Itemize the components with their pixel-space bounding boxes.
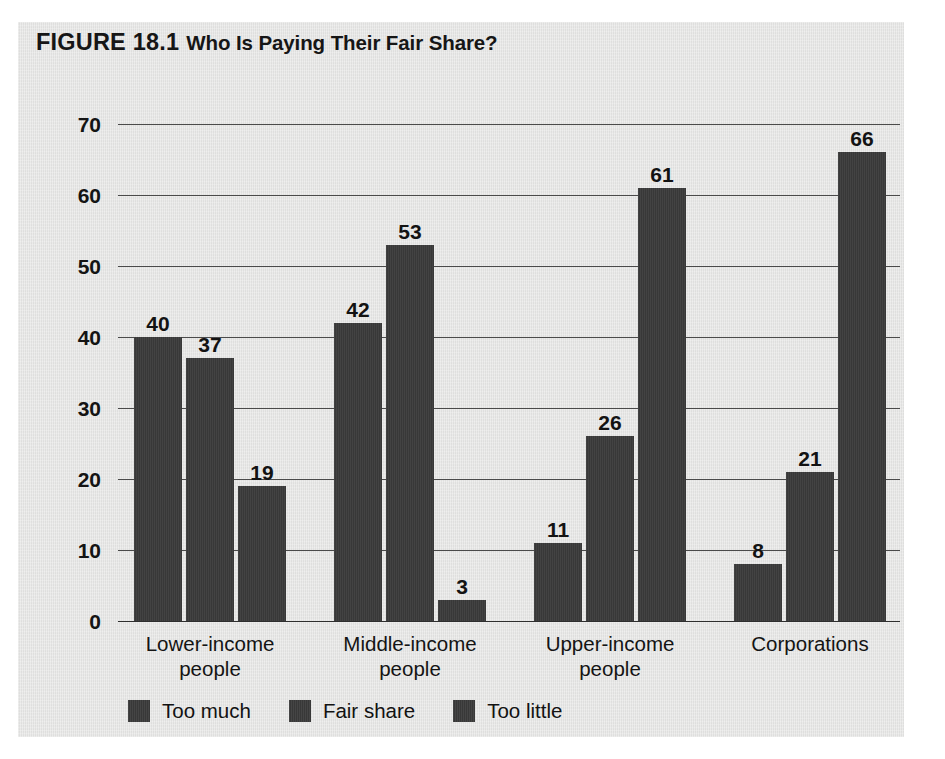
bar: 21 [786, 472, 834, 621]
legend-item[interactable]: Too much [128, 700, 251, 722]
y-axis-tick-label: 20 [78, 469, 101, 490]
x-axis-category-label: Middle-incomepeople [343, 631, 476, 681]
y-axis-tick-label: 10 [78, 540, 101, 561]
bar-value-label: 26 [598, 412, 621, 433]
category-label-line: people [546, 656, 675, 681]
bar: 53 [386, 245, 434, 621]
legend-swatch-icon [453, 700, 475, 722]
x-axis-category-label: Upper-incomepeople [546, 631, 675, 681]
bar: 3 [438, 600, 486, 621]
legend-label: Too much [162, 701, 251, 722]
bar-value-label: 11 [547, 519, 569, 540]
bar: 19 [238, 486, 286, 621]
chart-legend: Too muchFair shareToo little [128, 700, 600, 722]
x-axis-category-label: Lower-incomepeople [146, 631, 275, 681]
bar: 26 [586, 436, 634, 621]
y-axis-tick-label: 50 [78, 256, 101, 277]
category-label-line: Middle-income [343, 631, 476, 656]
figure-title: FIGURE 18.1Who Is Paying Their Fair Shar… [36, 27, 498, 58]
legend-item[interactable]: Fair share [289, 700, 415, 722]
bar-value-label: 19 [250, 462, 273, 483]
bar-value-label: 66 [850, 128, 873, 149]
chart-plot-area: 010203040506070 4037194253311266182166 L… [118, 124, 900, 621]
bar-value-label: 42 [346, 299, 369, 320]
bar: 61 [638, 188, 686, 621]
y-axis-tick-label: 70 [78, 114, 101, 135]
bar: 66 [838, 152, 886, 621]
bar: 42 [334, 323, 382, 621]
category-label-line: Upper-income [546, 631, 675, 656]
bar: 37 [186, 358, 234, 621]
gridline [118, 266, 900, 267]
bar-value-label: 61 [650, 164, 673, 185]
gridline [118, 408, 900, 409]
gridline [118, 124, 900, 125]
bar: 40 [134, 337, 182, 621]
gridline [118, 550, 900, 551]
bar-value-label: 37 [198, 334, 221, 355]
y-axis-tick-label: 40 [78, 327, 101, 348]
category-label-line: people [343, 656, 476, 681]
gridline [118, 195, 900, 196]
x-axis-category-label: Corporations [751, 631, 868, 656]
legend-swatch-icon [128, 700, 150, 722]
bar-value-label: 21 [798, 448, 821, 469]
bar: 11 [534, 543, 582, 621]
category-label-line: Lower-income [146, 631, 275, 656]
figure-heading: Who Is Paying Their Fair Share? [186, 31, 497, 54]
y-axis-tick-label: 60 [78, 185, 101, 206]
bar-value-label: 8 [752, 540, 764, 561]
x-axis-baseline [118, 621, 900, 622]
legend-label: Fair share [323, 701, 415, 722]
y-axis-tick-label: 30 [78, 398, 101, 419]
category-label-line: people [146, 656, 275, 681]
legend-swatch-icon [289, 700, 311, 722]
gridline [118, 337, 900, 338]
figure-number: FIGURE 18.1 [36, 29, 179, 55]
bar-value-label: 40 [146, 313, 169, 334]
bar-value-label: 3 [456, 576, 468, 597]
bar: 8 [734, 564, 782, 621]
legend-item[interactable]: Too little [453, 700, 562, 722]
figure-container: FIGURE 18.1Who Is Paying Their Fair Shar… [0, 0, 945, 759]
legend-label: Too little [487, 701, 562, 722]
category-label-line: Corporations [751, 631, 868, 656]
y-axis-tick-label: 0 [89, 611, 101, 632]
gridline [118, 479, 900, 480]
bar-value-label: 53 [398, 221, 421, 242]
